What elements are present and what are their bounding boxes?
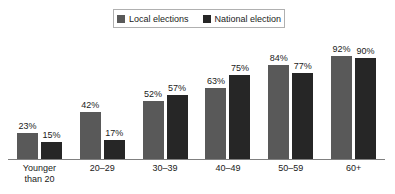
legend-item-national-election: National election — [203, 14, 282, 24]
chart-legend: Local elections National election — [113, 9, 285, 28]
bar-value-label: 57% — [168, 83, 186, 94]
bar-rect — [292, 73, 313, 159]
legend-item-local-elections: Local elections — [117, 14, 189, 24]
category-label-40-49: 40–49 — [198, 163, 258, 185]
legend-label-national-election: National election — [215, 14, 282, 24]
bar-value-label: 42% — [81, 100, 99, 111]
bar-value-label: 92% — [333, 44, 351, 55]
bar-rect — [268, 65, 289, 159]
bar-chart: Local elections National election 23% 15… — [0, 0, 395, 194]
bar-group-50-59: 84% 77% — [261, 36, 321, 159]
bar-value-label: 77% — [294, 61, 312, 72]
bar-value-label: 84% — [270, 53, 288, 64]
bar-group-60-plus: 92% 90% — [324, 36, 384, 159]
legend-swatch-national-election — [203, 15, 211, 23]
x-axis-category-labels: Younger than 20 20–29 30–39 40–49 50–59 … — [8, 163, 385, 185]
category-label-60-plus: 60+ — [324, 163, 384, 185]
category-label-line: 20–29 — [72, 163, 132, 174]
category-label-20-29: 20–29 — [72, 163, 132, 185]
bar-value-label: 17% — [105, 128, 123, 139]
bar-60-plus-local: 92% — [331, 36, 352, 159]
category-label-line: Younger — [9, 163, 69, 174]
bar-rect — [229, 75, 250, 159]
bar-rect — [17, 133, 38, 159]
bar-value-label: 23% — [18, 121, 36, 132]
category-label-50-59: 50–59 — [261, 163, 321, 185]
bar-30-39-national: 57% — [167, 36, 188, 159]
bar-value-label: 52% — [144, 89, 162, 100]
bar-rect — [167, 95, 188, 159]
bar-value-label: 75% — [231, 63, 249, 74]
bar-50-59-local: 84% — [268, 36, 289, 159]
bar-value-label: 90% — [357, 46, 375, 57]
category-label-line: 50–59 — [261, 163, 321, 174]
bar-value-label: 63% — [207, 76, 225, 87]
bar-rect — [331, 56, 352, 159]
bar-20-29-national: 17% — [104, 36, 125, 159]
bar-group-20-29: 42% 17% — [72, 36, 132, 159]
x-axis-line — [8, 159, 385, 160]
bar-50-59-national: 77% — [292, 36, 313, 159]
category-label-line: than 20 — [9, 174, 69, 185]
category-label-line: 30–39 — [135, 163, 195, 174]
plot-area: 23% 15% 42% 17% 52% 57% — [8, 36, 385, 159]
bar-rect — [205, 88, 226, 159]
category-label-line: 40–49 — [198, 163, 258, 174]
bar-rect — [104, 140, 125, 159]
bar-rect — [41, 142, 62, 159]
category-label-line: 60+ — [324, 163, 384, 174]
category-label-30-39: 30–39 — [135, 163, 195, 185]
bar-group-younger-than-20: 23% 15% — [9, 36, 69, 159]
bar-30-39-local: 52% — [143, 36, 164, 159]
legend-label-local-elections: Local elections — [129, 14, 189, 24]
bar-group-40-49: 63% 75% — [198, 36, 258, 159]
bar-20-29-local: 42% — [80, 36, 101, 159]
bar-younger-than-20-national: 15% — [41, 36, 62, 159]
bar-40-49-national: 75% — [229, 36, 250, 159]
bar-40-49-local: 63% — [205, 36, 226, 159]
bar-rect — [143, 101, 164, 159]
bar-value-label: 15% — [42, 130, 60, 141]
legend-swatch-local-elections — [117, 15, 125, 23]
category-label-younger-than-20: Younger than 20 — [9, 163, 69, 185]
bar-rect — [80, 112, 101, 159]
bar-younger-than-20-local: 23% — [17, 36, 38, 159]
bar-rect — [355, 58, 376, 159]
bar-group-30-39: 52% 57% — [135, 36, 195, 159]
bar-60-plus-national: 90% — [355, 36, 376, 159]
